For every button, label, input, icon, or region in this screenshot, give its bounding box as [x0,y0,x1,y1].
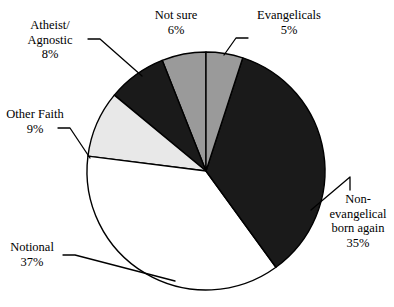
label-non-evangelical-line3: born again [322,221,394,236]
label-not-sure: Not sure 6% [134,8,218,37]
label-atheist-agnostic-pct: 8% [12,47,88,62]
label-evangelicals: Evangelicals 5% [242,8,336,37]
label-atheist-agnostic-line2: Agnostic [12,33,88,48]
leader-line-evangelicals [224,38,248,55]
label-atheist-agnostic: Atheist/ Agnostic 8% [12,18,88,62]
label-other-faith: Other Faith 9% [0,107,72,136]
label-not-sure-name: Not sure [134,8,218,23]
pie-chart-figure: Not sure 6% Evangelicals 5% Atheist/ Agn… [0,0,394,307]
label-atheist-agnostic-line1: Atheist/ [12,18,88,33]
label-other-faith-name: Other Faith [0,107,72,122]
pie-slices [87,52,325,290]
label-notional: Notional 37% [0,240,67,269]
label-other-faith-pct: 9% [0,122,72,137]
label-evangelicals-pct: 5% [242,23,336,38]
leader-line-atheist-agnostic [88,39,142,76]
label-non-evangelical-born-again: Non- evangelical born again 35% [322,192,394,250]
label-notional-pct: 37% [0,255,67,270]
label-evangelicals-name: Evangelicals [242,8,336,23]
label-non-evangelical-line1: Non- [322,192,394,207]
label-notional-name: Notional [0,240,67,255]
label-non-evangelical-line2: evangelical [322,207,394,222]
label-non-evangelical-pct: 35% [322,236,394,251]
label-not-sure-pct: 6% [134,23,218,38]
